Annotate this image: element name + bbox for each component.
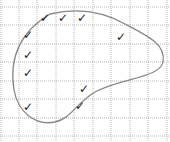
check-mark-icon: ✓: [75, 100, 85, 112]
check-mark-icon: ✓: [116, 31, 126, 43]
check-mark-icon: ✓: [58, 12, 68, 24]
check-mark-icon: ✓: [23, 29, 33, 41]
check-mark-icon: ✓: [79, 83, 89, 95]
check-mark-icon: ✓: [23, 101, 33, 113]
diagram-canvas: ✓✓✓✓✓✓✓✓✓✓: [0, 0, 170, 142]
check-mark-icon: ✓: [40, 12, 50, 24]
check-mark-icon: ✓: [77, 12, 87, 24]
check-mark-icon: ✓: [23, 67, 33, 79]
check-mark-icon: ✓: [23, 49, 33, 61]
closed-curve: [13, 11, 164, 123]
